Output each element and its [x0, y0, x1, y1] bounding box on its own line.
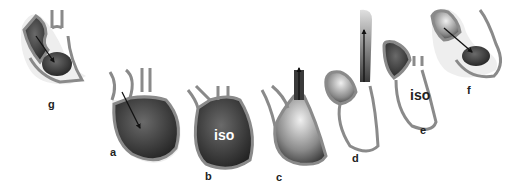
- panel-e: [384, 42, 436, 130]
- panel-g: [21, 10, 86, 84]
- panel-d: [326, 10, 378, 151]
- panel-b-phase-text: iso: [214, 127, 234, 143]
- panel-a-label: a: [110, 146, 117, 158]
- panel-f-label: f: [467, 84, 471, 96]
- cardiac-cycle-diagram: g a iso b c d iso e: [0, 0, 513, 188]
- panel-e-label: e: [420, 124, 426, 136]
- panel-d-label: d: [352, 152, 359, 164]
- panel-e-phase-text: iso: [410, 87, 430, 103]
- panel-g-label: g: [48, 98, 55, 110]
- panel-b-label: b: [205, 170, 212, 182]
- panel-c-label: c: [276, 171, 282, 183]
- panel-f: [432, 9, 501, 78]
- panel-c: [262, 68, 326, 164]
- panel-a: [110, 68, 180, 163]
